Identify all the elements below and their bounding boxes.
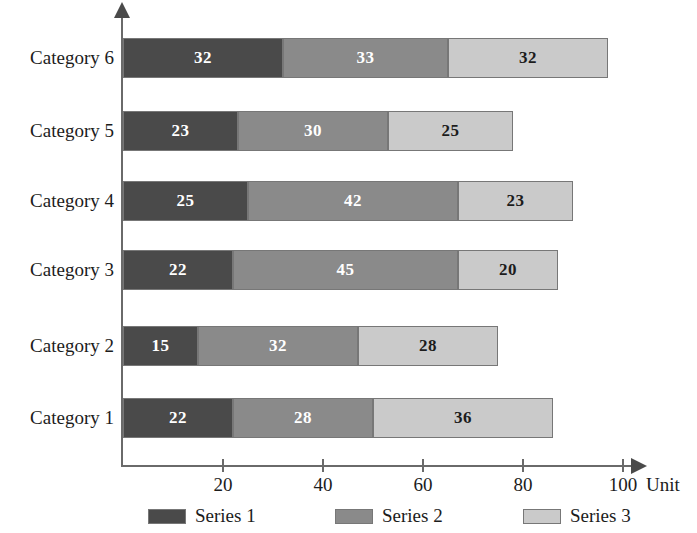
bar-segment-series-2: 28 xyxy=(233,398,373,438)
bar-segment-series-1: 32 xyxy=(123,38,283,78)
legend-item-series-3[interactable]: Series 3 xyxy=(523,505,631,527)
bar-segment-value: 32 xyxy=(269,336,287,356)
bar-row: Category 6323332 xyxy=(0,38,697,78)
bar-segment-value: 42 xyxy=(344,191,362,211)
bar-segment-value: 45 xyxy=(337,260,355,280)
legend-swatch-series-1 xyxy=(148,509,186,524)
y-axis-arrow-icon xyxy=(114,2,130,18)
bar-segment-value: 22 xyxy=(169,260,187,280)
legend-label: Series 2 xyxy=(382,505,443,527)
bar-segment-value: 25 xyxy=(442,121,460,141)
category-label: Category 4 xyxy=(8,181,114,221)
x-axis-tick-label: 40 xyxy=(293,474,353,496)
bar-row: Category 2153228 xyxy=(0,326,697,366)
category-label: Category 5 xyxy=(8,111,114,151)
bar-segment-value: 28 xyxy=(419,336,437,356)
bar-segment-value: 23 xyxy=(507,191,525,211)
bar-segment-value: 20 xyxy=(499,260,517,280)
category-label: Category 6 xyxy=(8,38,114,78)
bar-segment-series-1: 15 xyxy=(123,326,198,366)
bar-segment-series-3: 36 xyxy=(373,398,553,438)
x-axis-tick xyxy=(222,459,224,472)
x-axis-tick xyxy=(422,459,424,472)
bar-segment-series-2: 33 xyxy=(283,38,448,78)
bar-segment-series-3: 20 xyxy=(458,250,558,290)
bar-row: Category 4254223 xyxy=(0,181,697,221)
legend-label: Series 3 xyxy=(570,505,631,527)
bar-segment-value: 15 xyxy=(152,336,170,356)
bar-segment-series-1: 25 xyxy=(123,181,248,221)
bar-segment-series-1: 22 xyxy=(123,398,233,438)
bar-segment-series-3: 23 xyxy=(458,181,573,221)
bar-segment-series-3: 28 xyxy=(358,326,498,366)
x-axis-unit-label: Unit xyxy=(646,474,680,496)
chart-legend: Series 1Series 2Series 3 xyxy=(0,505,697,531)
bar-segment-series-3: 25 xyxy=(388,111,513,151)
bar-row: Category 3224520 xyxy=(0,250,697,290)
stacked-bar: 153228 xyxy=(123,326,498,366)
x-axis-arrow-icon xyxy=(631,458,647,474)
bar-segment-value: 36 xyxy=(454,408,472,428)
stacked-bar: 224520 xyxy=(123,250,558,290)
bar-segment-value: 32 xyxy=(519,48,537,68)
category-label: Category 1 xyxy=(8,398,114,438)
stacked-bar-chart: Category 1222836Category 2153228Category… xyxy=(0,0,697,533)
bar-segment-series-2: 45 xyxy=(233,250,458,290)
legend-item-series-1[interactable]: Series 1 xyxy=(148,505,256,527)
stacked-bar: 323332 xyxy=(123,38,608,78)
category-label: Category 2 xyxy=(8,326,114,366)
legend-swatch-series-3 xyxy=(523,509,561,524)
bar-segment-series-3: 32 xyxy=(448,38,608,78)
bar-segment-value: 23 xyxy=(172,121,190,141)
x-axis-tick-label: 20 xyxy=(193,474,253,496)
x-axis-line xyxy=(121,465,633,467)
stacked-bar: 222836 xyxy=(123,398,553,438)
bar-segment-series-1: 23 xyxy=(123,111,238,151)
bar-segment-value: 22 xyxy=(169,408,187,428)
bar-segment-series-2: 32 xyxy=(198,326,358,366)
bar-segment-value: 25 xyxy=(177,191,195,211)
x-axis-tick-label: 100 xyxy=(593,474,653,496)
category-label: Category 3 xyxy=(8,250,114,290)
stacked-bar: 233025 xyxy=(123,111,513,151)
x-axis-tick xyxy=(322,459,324,472)
plot-area: Category 1222836Category 2153228Category… xyxy=(0,0,697,480)
x-axis-tick-label: 60 xyxy=(393,474,453,496)
x-axis-tick xyxy=(622,459,624,472)
bar-row: Category 1222836 xyxy=(0,398,697,438)
bar-segment-series-1: 22 xyxy=(123,250,233,290)
bar-segment-series-2: 30 xyxy=(238,111,388,151)
bar-row: Category 5233025 xyxy=(0,111,697,151)
bar-segment-value: 33 xyxy=(357,48,375,68)
stacked-bar: 254223 xyxy=(123,181,573,221)
x-axis-tick-label: 80 xyxy=(493,474,553,496)
legend-item-series-2[interactable]: Series 2 xyxy=(335,505,443,527)
legend-label: Series 1 xyxy=(195,505,256,527)
legend-swatch-series-2 xyxy=(335,509,373,524)
bar-segment-series-2: 42 xyxy=(248,181,458,221)
bar-segment-value: 30 xyxy=(304,121,322,141)
bar-segment-value: 32 xyxy=(194,48,212,68)
bar-segment-value: 28 xyxy=(294,408,312,428)
x-axis-tick xyxy=(522,459,524,472)
